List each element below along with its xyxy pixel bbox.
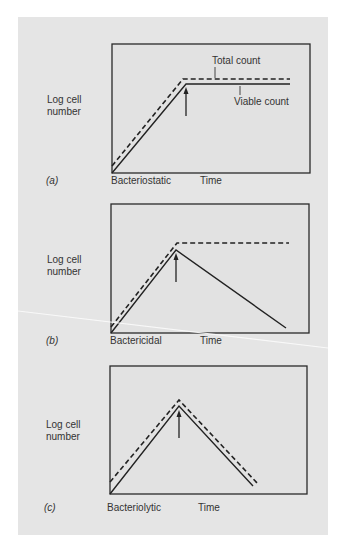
panel-b-letter: (b) (46, 335, 58, 346)
panel-b-xlabel: Time (200, 335, 222, 346)
panel-c-ylabel-line2: number (46, 431, 81, 442)
panel-c-ylabel-line1: Log cell (46, 419, 80, 430)
panel-c-condition: Bacteriolytic (107, 502, 161, 513)
panel-a-total-count-label: Total count (212, 55, 261, 66)
panel-c-xlabel: Time (198, 502, 220, 513)
panel-c-plot-frame (110, 366, 307, 494)
panel-b-ylabel-line2: number (47, 266, 82, 277)
panel-c-letter: (c) (44, 502, 56, 513)
panel-a-plot-frame (112, 44, 310, 173)
panel-b-condition: Bactericidal (110, 335, 162, 346)
panel-a-xlabel: Time (200, 175, 222, 186)
panel-a-ylabel-line1: Log cell (47, 94, 81, 105)
panel-a-ylabel-line2: number (47, 106, 82, 117)
panel-b-ylabel-line1: Log cell (47, 254, 81, 265)
panel-a-condition: Bacteriostatic (111, 175, 171, 186)
panel-b-plot-frame (111, 204, 309, 333)
figure: Total count Viable count Log cell number… (0, 0, 339, 551)
panel-a-letter: (a) (46, 175, 58, 186)
panel-a-viable-count-label: Viable count (234, 96, 289, 107)
